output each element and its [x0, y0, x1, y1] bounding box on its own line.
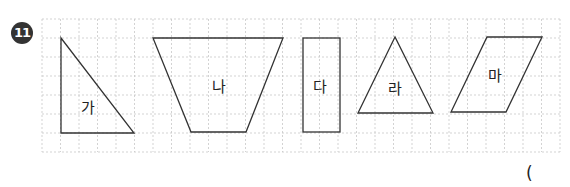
shape-label-da: 다 [313, 75, 327, 96]
answer-paren: ( [526, 163, 533, 183]
shape-label-na: 나 [212, 75, 226, 96]
shape-label-ga: 가 [81, 96, 95, 117]
grid-figure [0, 0, 570, 187]
shape-label-ma: 마 [488, 64, 502, 85]
shape-label-ra: 라 [388, 77, 402, 98]
